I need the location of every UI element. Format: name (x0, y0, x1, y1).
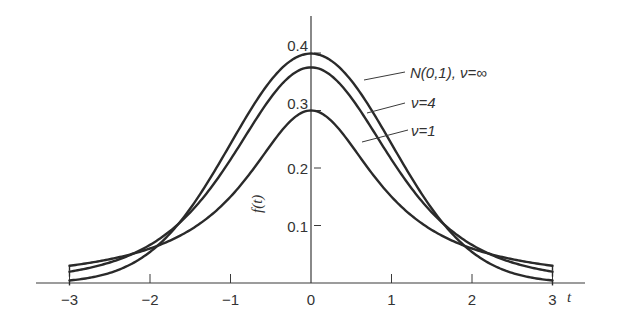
x-tick-label: 1 (387, 291, 395, 308)
legend-label-nu-4: ν=4 (411, 94, 436, 111)
y-tick-label: 0.3 (287, 95, 308, 112)
x-tick-label: −3 (61, 291, 78, 308)
t-distribution-chart: −3−2−101230.10.20.30.4 N(0,1), ν=∞ν=4ν=1… (0, 0, 621, 328)
x-axis-label: t (567, 289, 572, 305)
legend-leader-line (367, 103, 405, 113)
x-tick-label: 3 (548, 291, 556, 308)
y-tick-label: 0.4 (287, 37, 308, 54)
y-tick-label: 0.1 (287, 218, 308, 235)
x-tick-label: 2 (468, 291, 476, 308)
legend: N(0,1), ν=∞ν=4ν=1 (362, 64, 487, 142)
x-tick-label: −2 (141, 291, 158, 308)
x-tick-label: −1 (222, 291, 239, 308)
legend-label-nu-1: ν=1 (411, 122, 436, 139)
y-axis-label: f(t) (249, 195, 266, 213)
legend-leader-line (364, 72, 405, 80)
axes: −3−2−101230.10.20.30.4 (36, 16, 585, 308)
y-tick-label: 0.2 (287, 160, 308, 177)
x-tick-label: 0 (307, 291, 315, 308)
legend-label-normal: N(0,1), ν=∞ (410, 64, 487, 81)
